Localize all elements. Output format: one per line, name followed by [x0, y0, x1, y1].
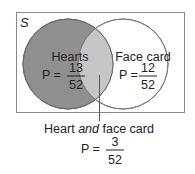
face-card-denominator: 52 — [141, 78, 155, 92]
universe-label: S — [20, 15, 29, 30]
face-card-numerator: 12 — [141, 61, 155, 75]
intersection-numerator: 3 — [112, 135, 119, 149]
hearts-numerator: 13 — [69, 61, 83, 75]
hearts-denominator: 52 — [69, 78, 83, 92]
face-card-p-label: P = — [119, 68, 138, 82]
intersection-denominator: 52 — [108, 153, 122, 167]
intersection-p-label: P = — [81, 142, 100, 156]
intersection-caption: Heart and face card — [44, 122, 154, 136]
hearts-p-label: P = — [42, 68, 61, 82]
venn-diagram: S Hearts P = 13 52 Face card P = 12 52 H… — [0, 0, 195, 174]
